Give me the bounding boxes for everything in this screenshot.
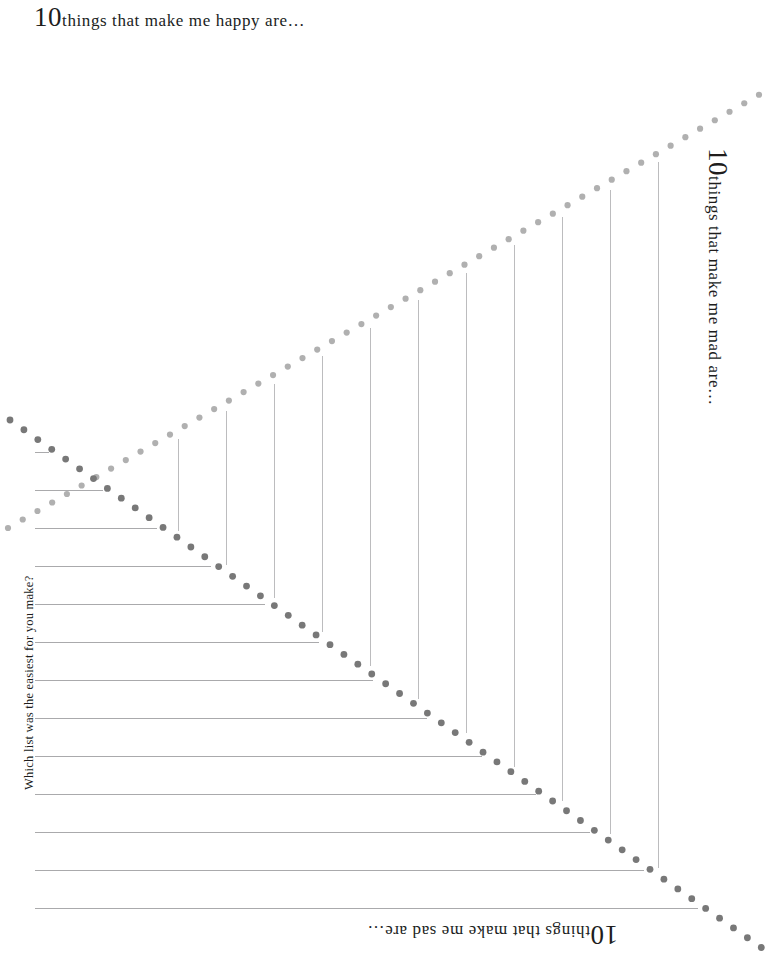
heading-happy: 10things that make me happy are…	[34, 2, 305, 33]
writing-line-vertical	[466, 273, 467, 733]
writing-line	[35, 832, 590, 833]
writing-line-vertical	[610, 190, 611, 835]
heading-happy-text: things that make me happy are…	[62, 11, 305, 30]
writing-line-vertical	[514, 245, 515, 767]
writing-line	[35, 528, 157, 529]
heading-mad-text: things that make me mad are…	[705, 176, 724, 406]
writing-line	[35, 718, 427, 719]
writing-line	[35, 680, 373, 681]
diagonal-dotted-lines	[0, 0, 766, 959]
writing-line-vertical	[178, 439, 179, 531]
writing-line-vertical	[370, 328, 371, 666]
writing-line-vertical	[226, 411, 227, 564]
writing-line	[35, 452, 49, 453]
writing-line	[35, 604, 265, 605]
worksheet-page: 10things that make me happy are… 10thing…	[0, 0, 766, 959]
writing-line	[35, 870, 644, 871]
writing-line-vertical	[274, 384, 275, 599]
writing-line-vertical	[418, 300, 419, 699]
writing-line-vertical	[322, 356, 323, 632]
writing-line	[35, 908, 698, 909]
reflection-question: Which list was the easiest for you make?	[22, 576, 37, 790]
writing-line	[35, 794, 536, 795]
heading-sad-text: things that make me sad are…	[367, 922, 590, 941]
writing-line	[35, 566, 211, 567]
heading-sad-number: 10	[590, 920, 618, 950]
writing-line	[35, 756, 482, 757]
writing-line-vertical	[658, 162, 659, 868]
writing-line-vertical	[562, 217, 563, 800]
writing-line	[35, 642, 319, 643]
heading-happy-number: 10	[34, 2, 62, 32]
writing-line	[35, 490, 103, 491]
heading-sad: 10things that make me sad are…	[367, 919, 618, 950]
heading-mad-number: 10	[703, 148, 733, 176]
heading-mad: 10things that make me mad are…	[702, 148, 733, 406]
